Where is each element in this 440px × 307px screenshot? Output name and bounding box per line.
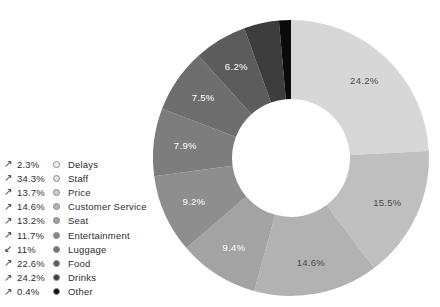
legend-item[interactable]: ↗13.2%Seat — [4, 214, 164, 228]
legend-item-label: Seat — [68, 215, 88, 226]
legend-item-label: Customer Service — [68, 201, 147, 212]
trend-up-icon: ↗ — [4, 159, 17, 169]
donut-slice-group — [153, 20, 429, 296]
trend-up-icon: ↗ — [4, 258, 17, 268]
legend-item[interactable]: ↗11.7%Entertainment — [4, 228, 164, 242]
legend-item-percent: 0.4% — [17, 286, 53, 297]
donut-slice-label: 9.4% — [223, 242, 246, 253]
trend-up-icon: ↗ — [4, 187, 17, 197]
legend-item[interactable]: ↗34.3%Staff — [4, 171, 164, 185]
legend-item-label: Price — [68, 187, 91, 198]
legend-item-label: Luggage — [68, 244, 106, 255]
legend-color-swatch-icon — [53, 217, 68, 224]
legend-color-swatch-icon — [53, 175, 68, 182]
donut-slice-label: 9.2% — [182, 196, 205, 207]
legend-item[interactable]: ↗2.3%Delays — [4, 157, 164, 171]
donut-slice[interactable] — [291, 20, 429, 155]
legend-color-swatch-icon — [53, 232, 68, 239]
trend-down-icon: ↙ — [4, 244, 17, 254]
legend-item-percent: 11.7% — [17, 230, 53, 241]
chart-legend: ↗2.3%Delays↗34.3%Staff↗13.7%Price↗14.6%C… — [4, 157, 164, 299]
legend-item-percent: 34.3% — [17, 173, 53, 184]
donut-slice-label: 6.2% — [225, 61, 248, 72]
legend-item-label: Other — [68, 286, 93, 297]
legend-item[interactable]: ↗0.4%Other — [4, 285, 164, 299]
legend-item[interactable]: ↗22.6%Food — [4, 256, 164, 270]
legend-item-percent: 2.3% — [17, 159, 53, 170]
legend-item-percent: 24.2% — [17, 272, 53, 283]
legend-item-percent: 22.6% — [17, 258, 53, 269]
trend-up-icon: ↗ — [4, 216, 17, 226]
donut-slice-label: 7.5% — [192, 92, 215, 103]
trend-up-icon: ↗ — [4, 202, 17, 212]
legend-color-swatch-icon — [53, 161, 68, 168]
trend-up-icon: ↗ — [4, 230, 17, 240]
legend-item[interactable]: ↗13.7%Price — [4, 185, 164, 199]
legend-color-swatch-icon — [53, 288, 68, 295]
trend-up-icon: ↗ — [4, 173, 17, 183]
donut-slice-label: 7.9% — [174, 140, 197, 151]
legend-item-label: Food — [68, 258, 90, 269]
donut-slice-label: 15.5% — [373, 197, 402, 208]
legend-item[interactable]: ↗14.6%Customer Service — [4, 200, 164, 214]
legend-item[interactable]: ↙11%Luggage — [4, 242, 164, 256]
donut-slice-label: 24.2% — [350, 75, 379, 86]
legend-item-label: Staff — [68, 173, 88, 184]
legend-item[interactable]: ↗24.2%Drinks — [4, 271, 164, 285]
trend-up-icon: ↗ — [4, 287, 17, 297]
legend-color-swatch-icon — [53, 189, 68, 196]
legend-color-swatch-icon — [53, 260, 68, 267]
trend-up-icon: ↗ — [4, 273, 17, 283]
legend-item-percent: 13.2% — [17, 215, 53, 226]
legend-color-swatch-icon — [53, 246, 68, 253]
legend-item-label: Delays — [68, 159, 98, 170]
legend-color-swatch-icon — [53, 274, 68, 281]
legend-item-percent: 13.7% — [17, 187, 53, 198]
donut-slice-label: 14.6% — [297, 257, 326, 268]
legend-item-percent: 14.6% — [17, 201, 53, 212]
legend-color-swatch-icon — [53, 203, 68, 210]
legend-item-label: Drinks — [68, 272, 96, 283]
legend-item-label: Entertainment — [68, 230, 130, 241]
legend-item-percent: 11% — [17, 244, 53, 255]
